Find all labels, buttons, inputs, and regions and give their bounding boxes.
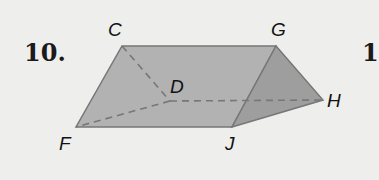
vertex-label-c: C [108,19,122,41]
vertex-label-f: F [59,133,71,155]
vertex-label-d: D [170,76,184,98]
vertex-label-g: G [271,19,286,41]
vertex-label-j: J [225,133,235,155]
vertex-label-h: H [327,90,341,112]
